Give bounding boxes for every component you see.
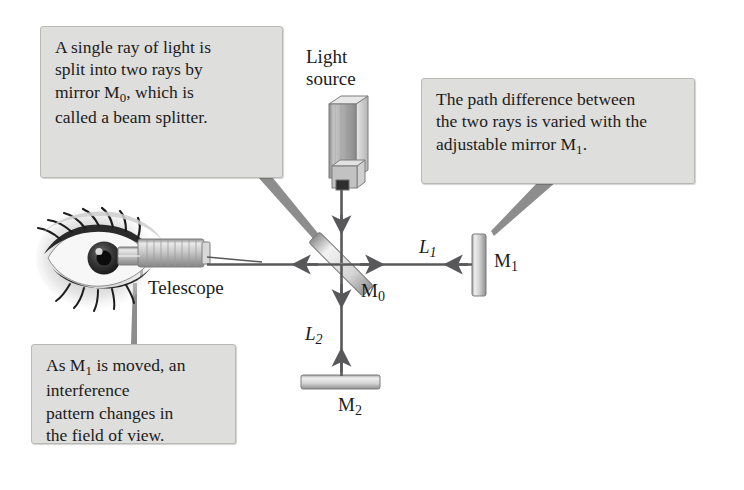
subscript: 1 xyxy=(430,244,437,260)
label-light-source: Light source xyxy=(306,46,356,90)
callout-line: split into two rays by xyxy=(55,58,270,80)
label-arm-length-l2: L2 xyxy=(305,323,323,348)
label-mirror-m1: M1 xyxy=(494,250,518,275)
subscript: 1 xyxy=(576,141,583,156)
ray-paths xyxy=(207,190,472,376)
figure-canvas: A single ray of light is split into two … xyxy=(0,0,744,490)
callout-line: interference xyxy=(46,379,223,401)
leader-pathdifference xyxy=(491,182,556,236)
callout-line: adjustable mirror M1. xyxy=(436,133,682,158)
callout-line: the two rays is varied with the xyxy=(436,110,682,132)
subscript: 2 xyxy=(355,402,362,418)
label-mirror-m0: M0 xyxy=(361,280,385,305)
telescope-axis xyxy=(207,257,262,262)
subscript: 2 xyxy=(316,331,323,347)
label-arm-length-l1: L1 xyxy=(419,236,437,261)
callout-line: the field of view. xyxy=(46,424,223,446)
callout-line: A single ray of light is xyxy=(55,36,270,58)
callout-line: The path difference between xyxy=(436,88,682,110)
label-light-source-line2: source xyxy=(306,68,356,90)
callout-line: pattern changes in xyxy=(46,402,223,424)
subscript: 1 xyxy=(511,258,518,274)
callout-path-difference: The path difference between the two rays… xyxy=(421,78,695,184)
callout-beam-splitter: A single ray of light is split into two … xyxy=(40,26,283,178)
callout-line: mirror M0, which is xyxy=(55,81,270,106)
callout-line: As M1 is moved, an xyxy=(46,354,223,379)
subscript: 0 xyxy=(378,288,385,304)
callout-line: called a beam splitter. xyxy=(55,106,270,128)
label-light-source-line1: Light xyxy=(306,46,356,68)
mirror-m1 xyxy=(472,234,486,296)
callout-interference-pattern: As M1 is moved, an interference pattern … xyxy=(31,344,236,444)
label-telescope: Telescope xyxy=(148,277,224,299)
label-mirror-m2: M2 xyxy=(338,394,362,419)
mirror-m2 xyxy=(301,375,380,389)
light-source-lamp xyxy=(329,96,368,190)
